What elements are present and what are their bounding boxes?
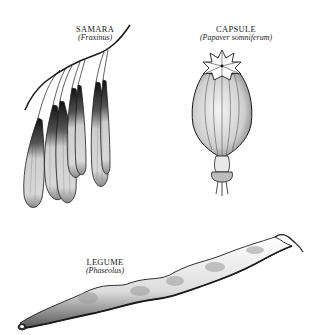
capsule-label: CAPSULE (Papaver somniferum) — [186, 25, 286, 42]
illustration-canvas — [0, 0, 314, 335]
legume-scientific-name: (Phaseolus) — [80, 267, 130, 275]
legume-drawing — [18, 235, 303, 330]
samara-scientific-name: (Fraxinus) — [76, 34, 114, 42]
legume-label: LEGUME (Phaseolus) — [80, 258, 130, 275]
capsule-scientific-name: (Papaver somniferum) — [186, 34, 286, 42]
fruit-types-illustration: SAMARA (Fraxinus) CAPSULE (Papaver somni… — [0, 0, 314, 335]
samara-drawing — [24, 25, 130, 207]
samara-label: SAMARA (Fraxinus) — [76, 25, 114, 42]
capsule-drawing — [192, 50, 252, 196]
